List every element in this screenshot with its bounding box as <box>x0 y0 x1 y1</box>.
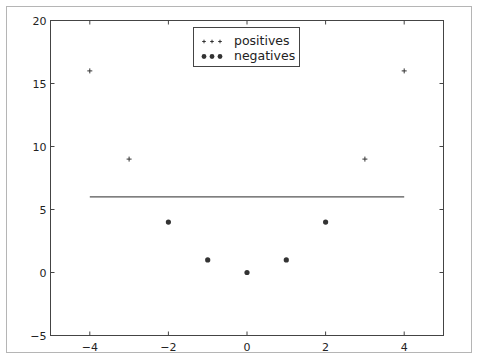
dot-marker <box>244 270 249 275</box>
dot-marker <box>284 257 289 262</box>
plus-marker <box>87 68 92 73</box>
legend-label-positives: positives <box>234 33 290 48</box>
plus-marker <box>402 68 407 73</box>
x-tick-label: 2 <box>322 341 329 354</box>
dot-marker <box>210 54 215 59</box>
x-tick-label: −2 <box>160 341 176 354</box>
plus-marker <box>362 157 367 162</box>
dot-marker <box>218 54 223 59</box>
y-tick-label: 15 <box>33 78 47 91</box>
dot-marker <box>323 220 328 225</box>
x-tick-label: −4 <box>82 341 98 354</box>
y-tick-label: 5 <box>40 204 47 217</box>
scatter-chart: −4−2024−505101520 positives negatives <box>0 0 478 359</box>
dot-marker <box>205 257 210 262</box>
x-tick-label: 4 <box>401 341 408 354</box>
dot-marker <box>202 54 207 59</box>
axes-box <box>51 21 444 336</box>
y-tick-label: 0 <box>40 267 47 280</box>
y-tick-label: 20 <box>33 15 47 28</box>
y-tick-label: 10 <box>33 141 47 154</box>
y-tick-label: −5 <box>30 330 46 343</box>
dot-marker <box>166 220 171 225</box>
legend-label-negatives: negatives <box>234 48 295 63</box>
legend: positives negatives <box>194 28 300 67</box>
x-tick-label: 0 <box>244 341 251 354</box>
dot-marker-icon <box>202 54 223 59</box>
plus-marker <box>127 157 132 162</box>
plot-area <box>87 68 406 275</box>
